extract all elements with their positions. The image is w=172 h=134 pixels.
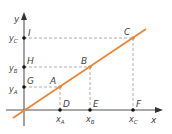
label-I: I [28,28,31,38]
tick-yC: yC [8,34,18,44]
point-D [58,108,62,112]
label-E: E [93,99,99,109]
point-E [88,108,92,112]
tick-yA: yA [8,85,18,95]
label-G: G [27,76,34,86]
label-C: C [124,27,131,37]
tick-xC: xC [128,115,138,125]
point-I [22,36,26,40]
point-B [88,65,92,69]
label-B: B [81,56,87,66]
label-H: H [27,56,34,66]
tick-yB: yB [8,64,18,74]
point-G [22,85,26,89]
label-A: A [49,76,56,86]
point-C [131,36,135,40]
tick-xA: xA [55,115,65,125]
label-D: D [63,99,70,109]
proportional-line [13,29,146,118]
y-axis-arrow-icon [21,12,27,20]
x-axis-arrow-icon [155,107,163,113]
point-H [22,65,26,69]
point-F [131,108,135,112]
x-axis-label: x [150,115,157,125]
point-A [58,85,62,89]
coordinate-diagram: A B C D E F G H I y x xA xB xC yA yB yC [0,0,172,134]
label-F: F [136,99,142,109]
y-axis-label: y [13,14,20,24]
tick-xB: xB [85,115,95,125]
